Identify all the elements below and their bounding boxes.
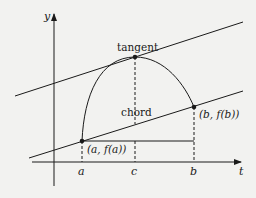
chord-line — [29, 91, 243, 158]
point-a-label: (a, f(a)) — [87, 143, 126, 155]
t-axis-label: t — [239, 165, 244, 178]
y-axis-label: y — [43, 10, 51, 23]
point-b — [192, 105, 197, 110]
point-c-tangency — [133, 55, 138, 60]
point-a — [80, 139, 85, 144]
mvt-diagram: y t a c b tangent chord (a, f(a)) (b, f(… — [0, 0, 256, 198]
chord-label: chord — [121, 106, 152, 118]
tick-label-b: b — [190, 165, 197, 178]
tangent-line — [15, 22, 243, 96]
function-curve — [82, 57, 194, 141]
tangent-label: tangent — [117, 41, 159, 53]
point-b-label: (b, f(b)) — [199, 108, 239, 120]
tick-label-a: a — [78, 165, 85, 178]
tick-label-c: c — [131, 165, 137, 178]
